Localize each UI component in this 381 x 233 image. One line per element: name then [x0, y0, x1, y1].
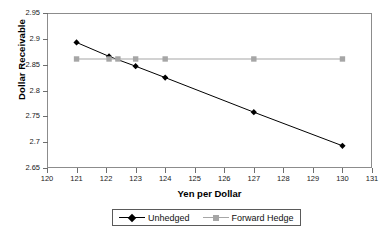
data-point-marker: [115, 56, 120, 61]
data-point-marker: [106, 56, 111, 61]
legend-marker-square-icon: [203, 213, 229, 222]
data-point-marker: [340, 56, 345, 61]
legend-marker-diamond-icon: [119, 213, 145, 222]
data-point-marker: [133, 63, 139, 69]
data-point-marker: [73, 39, 79, 45]
data-point-marker: [162, 74, 168, 80]
legend-item-forward-hedge[interactable]: Forward Hedge: [203, 213, 294, 223]
legend-label-forward-hedge: Forward Hedge: [232, 213, 294, 223]
legend-item-unhedged[interactable]: Unhedged: [119, 213, 190, 223]
data-point-marker: [251, 109, 257, 115]
data-point-marker: [133, 56, 138, 61]
plot-data-layer: [0, 0, 381, 233]
chart-legend: Unhedged Forward Hedge: [112, 209, 301, 226]
series-forward-hedge: [74, 56, 345, 61]
data-point-marker: [74, 56, 79, 61]
chart-container: 2.652.72.752.82.852.92.95120121122123124…: [0, 0, 381, 233]
data-point-marker: [339, 143, 345, 149]
series-unhedged: [73, 39, 345, 149]
data-point-marker: [162, 56, 167, 61]
data-point-marker: [251, 56, 256, 61]
legend-label-unhedged: Unhedged: [148, 213, 190, 223]
